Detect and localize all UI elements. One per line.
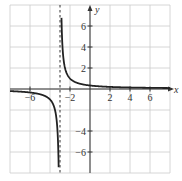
curve-right-branch xyxy=(61,18,170,88)
y-tick-label: −4 xyxy=(75,126,86,137)
chart: −6−2246642−4−6 x y xyxy=(0,0,182,181)
y-tick-label: 2 xyxy=(81,63,86,74)
x-tick-label: −2 xyxy=(65,92,76,103)
y-axis-label: y xyxy=(94,4,100,15)
x-tick-label: 4 xyxy=(128,92,133,103)
x-tick-label: 6 xyxy=(148,92,153,103)
y-axis-arrow xyxy=(88,5,93,11)
x-axis-label: x xyxy=(173,84,179,95)
x-tick-label: 2 xyxy=(108,92,113,103)
y-tick-label: 6 xyxy=(81,21,86,32)
y-tick-label: 4 xyxy=(81,42,86,53)
axes xyxy=(10,5,174,173)
y-tick-label: −6 xyxy=(75,147,86,158)
